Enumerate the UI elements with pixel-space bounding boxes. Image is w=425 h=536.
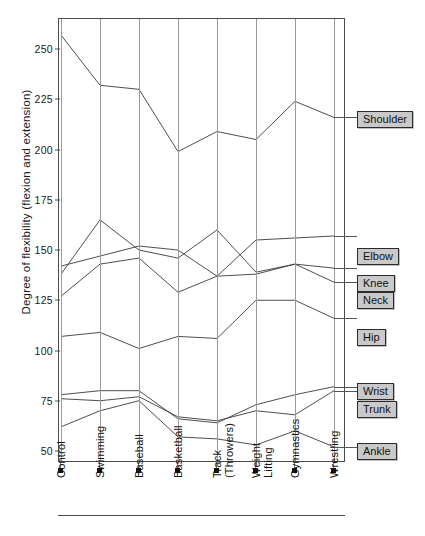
series-label-hip: Hip [357, 329, 386, 346]
x-axis-label: Swimming [95, 426, 107, 478]
series-line-shoulder [61, 35, 334, 152]
series-label-leader [334, 391, 357, 392]
category-gridline [178, 19, 179, 461]
series-label-knee: Knee [357, 275, 395, 292]
y-axis-tick-label: 200 [35, 144, 53, 156]
y-axis-tick-label: 125 [35, 294, 53, 306]
x-axis-baseline [58, 515, 345, 516]
series-label-leader [334, 387, 357, 388]
category-gridline [334, 19, 335, 461]
series-label-trunk: Trunk [357, 401, 397, 418]
y-axis-tick-mark [55, 300, 60, 301]
x-axis-label: Basketball [173, 425, 185, 478]
y-axis-tick-mark [55, 350, 60, 351]
x-axis-label: Baseball [134, 434, 146, 478]
category-gridline [100, 19, 101, 461]
series-line-knee [61, 220, 334, 274]
series-label-shoulder: Shoulder [357, 111, 413, 128]
x-axis-label: Gymnastics [290, 419, 302, 478]
series-label-leader [334, 318, 357, 319]
category-gridline [256, 19, 257, 461]
y-axis-tick-label: 50 [41, 445, 53, 457]
series-label-leader [334, 268, 357, 269]
series-label-elbow: Elbow [357, 248, 399, 265]
y-axis-tick-mark [55, 250, 60, 251]
series-line-elbow [61, 236, 334, 276]
category-gridline [295, 19, 296, 461]
y-axis-tick-label: 100 [35, 345, 53, 357]
y-axis-tick-mark [55, 400, 60, 401]
series-label-ankle: Ankle [357, 443, 397, 460]
y-axis-tick-label: 225 [35, 93, 53, 105]
y-axis-tick-mark [55, 49, 60, 50]
y-axis-tick-label: 175 [35, 194, 53, 206]
x-axis-label: Weight Lifting [251, 443, 274, 478]
series-label-leader [334, 236, 357, 237]
x-axis-label: Control [56, 441, 68, 478]
chart-figure: Degree of flexibility (flexion and exten… [0, 0, 425, 536]
series-label-neck: Neck [357, 292, 394, 309]
series-line-wrist [61, 387, 334, 423]
category-gridline [61, 19, 62, 461]
y-axis-title: Degree of flexibility (flexion and exten… [20, 42, 32, 362]
plot-area: 2502252001751501251007550 [58, 18, 345, 462]
series-line-hip [61, 300, 334, 348]
x-axis-label: Track (Throwers) [212, 423, 235, 478]
series-label-wrist: Wrist [357, 383, 394, 400]
y-axis-tick-label: 75 [41, 395, 53, 407]
series-line-neck [61, 258, 334, 296]
category-gridline [139, 19, 140, 461]
series-label-leader [334, 282, 357, 283]
category-gridline [217, 19, 218, 461]
series-lines [59, 19, 344, 461]
y-axis-tick-label: 150 [35, 244, 53, 256]
y-axis-tick-mark [55, 99, 60, 100]
y-axis-tick-label: 250 [35, 43, 53, 55]
y-axis-tick-mark [55, 149, 60, 150]
series-label-leader [334, 447, 357, 448]
y-axis-tick-mark [55, 199, 60, 200]
series-label-leader [334, 117, 357, 118]
x-axis-label: Wrestling [329, 431, 341, 478]
